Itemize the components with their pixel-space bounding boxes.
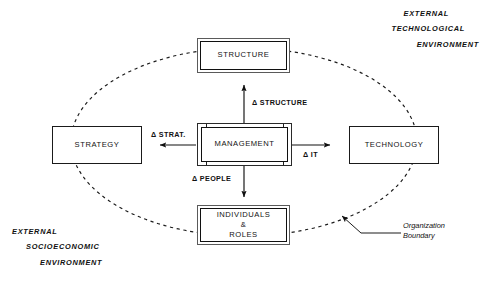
env-socio-line-1: EXTERNAL (12, 224, 102, 239)
env-socio-line-2: SOCIOECONOMIC (26, 239, 102, 254)
node-strategy[interactable]: STRATEGY (52, 126, 142, 164)
env-socio-line-3: ENVIRONMENT (40, 255, 102, 270)
node-management-label: MANAGEMENT (215, 139, 275, 149)
node-management[interactable]: MANAGEMENT (197, 123, 292, 166)
arrow-label-delta-strat: Δ STRAT. (151, 130, 186, 139)
node-management-inner: MANAGEMENT (201, 127, 289, 163)
boundary-leader-line (342, 216, 401, 233)
node-structure-inner: STRUCTURE (200, 41, 288, 71)
arrow-label-delta-structure: Δ STRUCTURE (252, 98, 307, 107)
arrow-label-delta-people: Δ PEOPLE (192, 174, 231, 183)
node-individuals-roles[interactable]: INDIVIDUALS & ROLES (197, 205, 290, 245)
external-socioeconomic-environment: EXTERNAL SOCIOECONOMIC ENVIRONMENT (12, 224, 102, 270)
node-structure-label: STRUCTURE (218, 50, 270, 60)
node-strategy-label: STRATEGY (75, 140, 120, 150)
node-technology-label: TECHNOLOGY (365, 140, 424, 150)
annotation-organization-boundary: Organization Boundary (403, 221, 445, 241)
node-individuals-roles-label: INDIVIDUALS & ROLES (217, 210, 271, 240)
node-individuals-roles-inner: INDIVIDUALS & ROLES (200, 208, 288, 243)
arrow-label-delta-it: Δ IT (303, 150, 318, 159)
env-tech-line-3: ENVIRONMENT (391, 37, 479, 52)
env-tech-line-1: EXTERNAL (391, 6, 449, 21)
node-structure[interactable]: STRUCTURE (197, 38, 290, 73)
env-tech-line-2: TECHNOLOGICAL (391, 21, 465, 36)
node-technology[interactable]: TECHNOLOGY (349, 126, 439, 164)
diagram-canvas: STRUCTURE STRATEGY MANAGEMENT TECHNOLOGY… (0, 0, 489, 284)
external-technological-environment: EXTERNAL TECHNOLOGICAL ENVIRONMENT (391, 6, 479, 52)
